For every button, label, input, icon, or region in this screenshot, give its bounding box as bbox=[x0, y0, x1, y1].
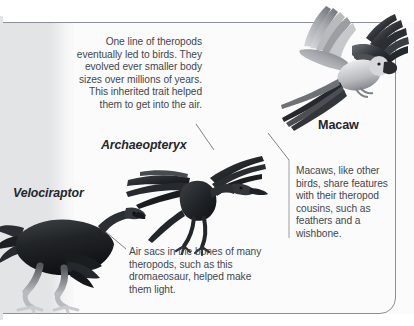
callout-theropods: One line of theropods eventually led to … bbox=[74, 36, 202, 112]
archaeopteryx-illustration bbox=[124, 150, 274, 258]
label-archaeopteryx: Archaeopteryx bbox=[101, 138, 186, 152]
velociraptor-illustration bbox=[0, 192, 146, 314]
archaeopteryx-eye bbox=[240, 187, 243, 190]
macaw-far-wing bbox=[299, 6, 356, 71]
figure-canvas: One line of theropods eventually led to … bbox=[0, 0, 414, 326]
macaw-eye bbox=[377, 62, 380, 65]
velociraptor-head bbox=[98, 207, 146, 234]
callout-macaw: Macaws, like other birds, share features… bbox=[296, 165, 400, 241]
label-velociraptor: Velociraptor bbox=[13, 186, 84, 200]
macaw-illustration bbox=[280, 2, 412, 134]
label-macaw: Macaw bbox=[318, 118, 359, 132]
callout-air-sacs: Air sacs in the bones of many theropods,… bbox=[129, 246, 265, 296]
velociraptor-eye bbox=[132, 211, 135, 214]
archaeopteryx-body bbox=[148, 181, 268, 255]
macaw-beak bbox=[383, 61, 397, 74]
